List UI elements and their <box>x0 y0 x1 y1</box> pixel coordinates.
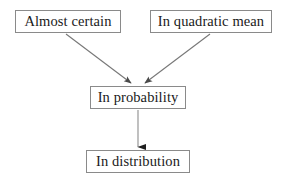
node-in-distribution-label: In distribution <box>96 154 180 170</box>
edge-almost-certain-to-in-probability <box>66 34 131 83</box>
edge-quadratic-mean-to-in-probability <box>145 34 210 83</box>
node-in-quadratic-mean-label: In quadratic mean <box>158 14 264 30</box>
node-in-probability-label: In probability <box>98 90 179 106</box>
convergence-diagram: Almost certain In quadratic mean In prob… <box>0 0 286 183</box>
node-in-quadratic-mean: In quadratic mean <box>150 10 272 33</box>
node-almost-certain: Almost certain <box>15 10 121 33</box>
node-almost-certain-label: Almost certain <box>24 14 111 30</box>
node-in-probability: In probability <box>90 86 186 109</box>
node-in-distribution: In distribution <box>86 150 190 173</box>
